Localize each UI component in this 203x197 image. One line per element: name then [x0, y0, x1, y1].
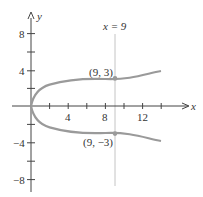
x-axis-label: x	[190, 100, 196, 112]
y-tick-label-neg4: −4	[13, 137, 25, 149]
y-tick-label-8: 8	[19, 28, 25, 40]
y-tick-label-neg8: −8	[13, 174, 25, 186]
point-9-neg3	[113, 131, 118, 136]
y-tick-label-4: 4	[19, 65, 25, 77]
y-axis-label: y	[36, 10, 42, 22]
point-upper-label: (9, 3)	[89, 66, 113, 79]
x-tick-label-12: 12	[137, 111, 148, 123]
y-axis-arrow-icon	[28, 12, 34, 19]
point-lower-label: (9, −3)	[83, 136, 113, 149]
x-tick-label-8: 8	[102, 111, 108, 123]
vline-label: x = 9	[102, 20, 127, 32]
point-9-3	[113, 76, 118, 81]
chart: y x x = 9 (9, 3) (9, −3) 4 8 12 8 4 −4 −…	[0, 0, 203, 197]
x-tick-label-4: 4	[65, 111, 71, 123]
